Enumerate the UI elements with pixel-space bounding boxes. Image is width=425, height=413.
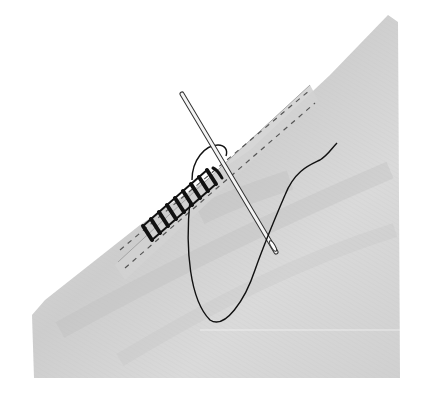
fabric-piece — [32, 15, 400, 378]
sewing-illustration — [0, 0, 425, 413]
illustration-canvas — [0, 0, 425, 413]
